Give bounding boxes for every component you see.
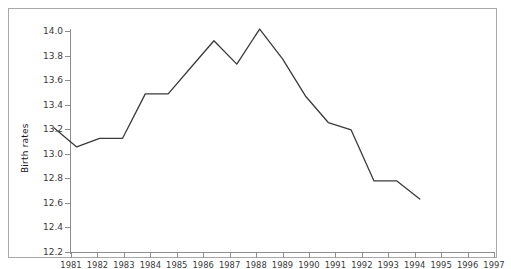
x-tick <box>309 253 310 258</box>
y-tick <box>65 105 71 106</box>
x-tick <box>494 253 495 258</box>
x-tick <box>230 253 231 258</box>
y-tick <box>65 227 71 228</box>
y-tick <box>65 31 71 32</box>
x-tick <box>388 253 389 258</box>
chart-frame: Birth rates 14.013.813.613.413.213.012.8… <box>8 8 497 258</box>
y-tick <box>65 154 71 155</box>
birth-rates-line <box>54 29 420 199</box>
x-tick <box>203 253 204 258</box>
x-tick-label: 1997 <box>474 260 511 269</box>
y-tick <box>65 129 71 130</box>
y-tick-label: 12.2 <box>17 247 63 257</box>
x-tick <box>283 253 284 258</box>
x-tick <box>256 253 257 258</box>
x-tick <box>441 253 442 258</box>
x-tick <box>71 253 72 258</box>
x-tick <box>415 253 416 258</box>
x-tick <box>124 253 125 258</box>
x-tick <box>468 253 469 258</box>
y-tick <box>65 203 71 204</box>
x-tick <box>362 253 363 258</box>
x-tick <box>177 253 178 258</box>
y-tick <box>65 178 71 179</box>
x-tick <box>97 253 98 258</box>
y-tick <box>65 80 71 81</box>
line-series-plot <box>8 8 431 229</box>
x-tick <box>150 253 151 258</box>
x-tick <box>335 253 336 258</box>
y-tick <box>65 56 71 57</box>
